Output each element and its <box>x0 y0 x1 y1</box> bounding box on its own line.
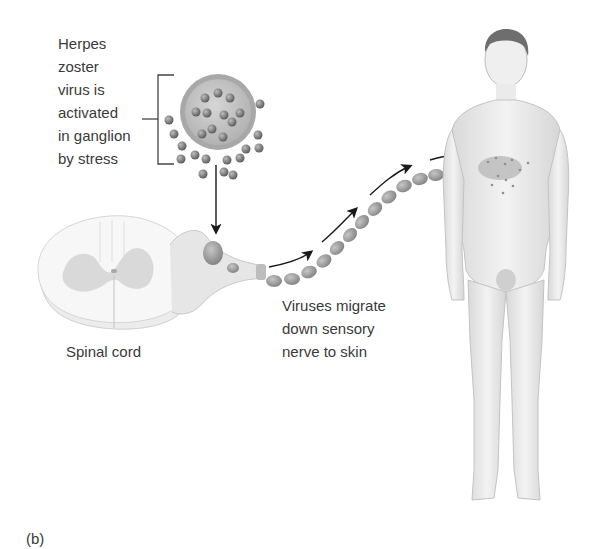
human-figure <box>443 29 568 500</box>
label-line: nerve to skin <box>282 340 386 363</box>
label-line: in ganglion <box>58 124 131 147</box>
label-line: Viruses migrate <box>282 294 386 317</box>
ganglion <box>170 230 266 314</box>
panel-label: (b) <box>26 527 44 549</box>
label-line: down sensory <box>282 317 386 340</box>
migration-label: Viruses migrate down sensory nerve to sk… <box>282 294 386 363</box>
label-line: Herpes <box>58 32 131 55</box>
virus-virion-icon <box>165 74 265 180</box>
label-line: activated <box>58 101 131 124</box>
label-line: by stress <box>58 147 131 170</box>
label-line: virus is <box>58 78 131 101</box>
label-line: zoster <box>58 55 131 78</box>
spinal-cord-label: Spinal cord <box>66 340 141 363</box>
virus-activation-label: Herpes zoster virus is activated in gang… <box>58 32 131 170</box>
sensory-nerve <box>266 167 460 287</box>
spinal-cord-section <box>38 216 192 329</box>
